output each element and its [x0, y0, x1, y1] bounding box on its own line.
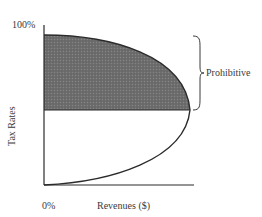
laffer-curve-lower: [44, 110, 190, 185]
laffer-chart: [0, 0, 262, 217]
prohibitive-label: Prohibitive: [206, 67, 250, 78]
prohibitive-region: [44, 35, 190, 110]
x-origin-label: 0%: [42, 200, 55, 211]
y-axis-label: Tax Rates: [6, 106, 17, 146]
y-tick-100: 100%: [12, 19, 35, 30]
x-axis-label: Revenues ($): [97, 200, 150, 211]
prohibitive-brace: [193, 36, 204, 110]
